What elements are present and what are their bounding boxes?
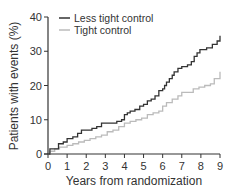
- y-tick-label: 40: [30, 11, 42, 23]
- x-tick-label: 4: [121, 160, 127, 172]
- x-tick-label: 3: [102, 160, 108, 172]
- y-tick-label: 10: [30, 114, 42, 126]
- y-axis-label: Patients with events (%): [7, 22, 21, 151]
- km-chart: 010203040 0123456789 Less tight controlT…: [0, 0, 238, 193]
- x-axis-label: Years from randomization: [66, 174, 202, 188]
- x-tick-label: 2: [83, 160, 89, 172]
- x-tick-label: 0: [45, 160, 51, 172]
- series-layer: [48, 36, 220, 154]
- x-tick-label: 1: [64, 160, 70, 172]
- y-axis: 010203040: [30, 11, 48, 160]
- legend: Less tight controlTight control: [59, 12, 153, 36]
- x-tick-label: 7: [179, 160, 185, 172]
- series-line-tight-control: [48, 72, 220, 154]
- x-tick-label: 6: [160, 160, 166, 172]
- y-tick-label: 30: [30, 45, 42, 57]
- x-tick-label: 8: [198, 160, 204, 172]
- x-tick-label: 5: [140, 160, 146, 172]
- series-line-less-tight-control: [48, 36, 220, 154]
- x-axis: 0123456789: [44, 154, 223, 172]
- legend-label: Tight control: [74, 24, 131, 36]
- x-tick-label: 9: [217, 160, 223, 172]
- y-tick-label: 20: [30, 80, 42, 92]
- legend-label: Less tight control: [74, 12, 153, 24]
- y-tick-label: 0: [36, 148, 42, 160]
